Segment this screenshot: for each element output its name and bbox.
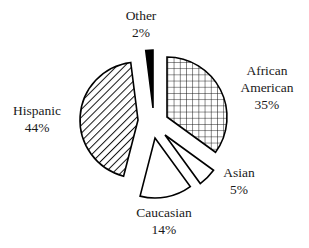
slice-label-caucasian: Caucasian14%: [136, 204, 191, 238]
slice-category-text: American: [240, 79, 293, 96]
slice-category-text: Caucasian: [136, 204, 191, 221]
slice-label-african-american: AfricanAmerican35%: [240, 62, 293, 113]
slice-percentage-text: 14%: [136, 221, 191, 238]
slice-category-text: African: [240, 62, 293, 79]
slice-percentage-text: 44%: [13, 119, 61, 136]
slice-label-hispanic: Hispanic44%: [13, 102, 61, 136]
slice-label-other: Other2%: [126, 7, 157, 41]
pie-slices: [80, 50, 227, 198]
slice-category-text: Asian: [223, 164, 255, 181]
slice-percentage-text: 35%: [240, 96, 293, 113]
slice-label-asian: Asian5%: [223, 164, 255, 198]
slice-category-text: Other: [126, 7, 157, 24]
pie-slice-hispanic: [80, 62, 138, 176]
pie-slice-other: [146, 50, 153, 108]
pie-slice-african-american: [167, 57, 227, 152]
slice-percentage-text: 2%: [126, 24, 157, 41]
slice-percentage-text: 5%: [223, 181, 255, 198]
slice-category-text: Hispanic: [13, 102, 61, 119]
